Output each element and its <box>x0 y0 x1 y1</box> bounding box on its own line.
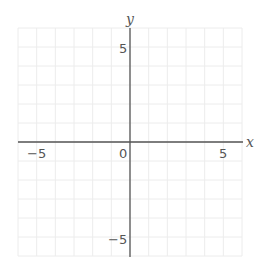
y-axis-label: y <box>125 11 135 27</box>
x-tick-5: 5 <box>219 146 227 161</box>
x-tick-neg5: −5 <box>27 146 46 161</box>
origin-label: 0 <box>119 146 127 161</box>
y-tick-5: 5 <box>119 41 127 56</box>
y-tick-neg5: −5 <box>108 232 127 247</box>
x-axis-label: x <box>246 134 254 150</box>
coordinate-plane: x y −5 0 5 5 −5 <box>0 0 269 275</box>
